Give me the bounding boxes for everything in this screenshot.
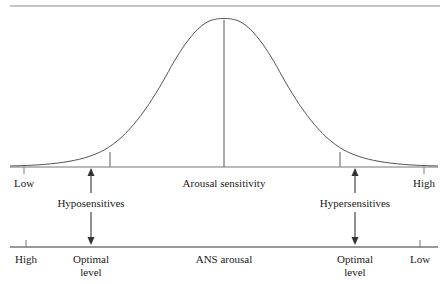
hyposensitives-down-arrow-icon bbox=[88, 212, 95, 245]
hyposensitives-optimal-line2: level bbox=[73, 266, 109, 279]
lower-axis-right-tick-label: Low bbox=[410, 253, 430, 265]
hypersensitives-down-arrow-icon bbox=[352, 212, 359, 245]
arousal-sensitivity-diagram: Low Arousal sensitivity High Hyposensiti… bbox=[0, 0, 448, 284]
hyposensitives-optimal-level-label: Optimal level bbox=[73, 253, 109, 279]
hypersensitives-optimal-line1: Optimal bbox=[337, 253, 373, 266]
hypersensitives-optimal-line2: level bbox=[337, 266, 373, 279]
hyposensitives-label: Hyposensitives bbox=[57, 197, 124, 209]
lower-axis-left-tick-label: High bbox=[15, 253, 37, 265]
lower-axis-center-label: ANS arousal bbox=[196, 253, 253, 265]
upper-axis-right-tick-label: High bbox=[413, 177, 435, 189]
hypersensitives-up-arrow-icon bbox=[352, 168, 359, 193]
hypersensitives-optimal-level-label: Optimal level bbox=[337, 253, 373, 279]
hyposensitives-up-arrow-icon bbox=[88, 168, 95, 193]
upper-axis-center-label: Arousal sensitivity bbox=[183, 177, 266, 189]
upper-axis-left-tick-label: Low bbox=[14, 177, 34, 189]
hyposensitives-optimal-line1: Optimal bbox=[73, 253, 109, 266]
hypersensitives-label: Hypersensitives bbox=[320, 197, 390, 209]
diagram-canvas bbox=[0, 0, 448, 284]
